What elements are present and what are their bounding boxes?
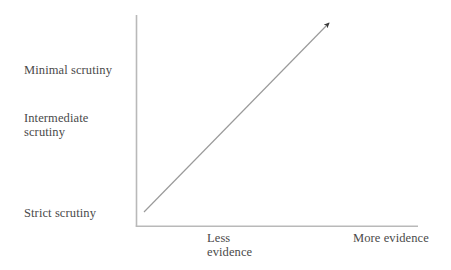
trend-arrow bbox=[144, 23, 329, 212]
x-axis-label-more-evidence: More evidence bbox=[353, 232, 429, 246]
x-axis-label-less-evidence: Less evidence bbox=[207, 232, 252, 259]
scrutiny-evidence-diagram: Minimal scrutiny Intermediate scrutiny S… bbox=[0, 0, 451, 270]
y-axis-label-intermediate-scrutiny: Intermediate scrutiny bbox=[24, 112, 88, 139]
y-axis-label-minimal-scrutiny: Minimal scrutiny bbox=[24, 64, 112, 78]
y-axis-label-strict-scrutiny: Strict scrutiny bbox=[24, 207, 96, 221]
